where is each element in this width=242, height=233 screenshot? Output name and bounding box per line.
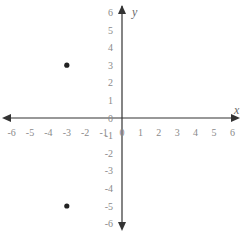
x-axis-label: x	[233, 103, 240, 117]
y-tick-label: 3	[108, 60, 113, 71]
y-tick-label: 6	[108, 7, 113, 18]
x-tick-label: -3	[63, 127, 71, 138]
x-tick-labels: -6-5-4-3-2-10123456	[7, 127, 234, 138]
data-point	[64, 203, 69, 208]
x-tick-label: -5	[26, 127, 34, 138]
x-tick-label: 2	[156, 127, 161, 138]
x-tick-label: 0	[120, 127, 125, 138]
y-tick-label: -2	[105, 148, 113, 159]
x-tick-label: 4	[193, 127, 198, 138]
y-tick-label: -3	[105, 165, 113, 176]
x-tick-label: 6	[230, 127, 235, 138]
y-tick-label-origin: 0	[108, 113, 113, 124]
x-tick-label: -6	[7, 127, 15, 138]
y-tick-label: 5	[108, 25, 113, 36]
x-axis	[2, 114, 240, 122]
x-tick-label: 3	[175, 127, 180, 138]
y-tick-label: -5	[105, 201, 113, 212]
y-tick-label: -4	[105, 183, 113, 194]
y-tick-label: 4	[108, 42, 113, 53]
data-point	[64, 63, 69, 68]
x-tick-label: -4	[44, 127, 52, 138]
y-tick-label: 1	[108, 95, 113, 106]
y-tick-label: -1	[105, 130, 113, 141]
y-axis-label: y	[131, 5, 138, 19]
x-axis-left-arrow-icon	[2, 114, 11, 122]
y-tick-label: -6	[105, 218, 113, 229]
x-tick-label: 5	[212, 127, 217, 138]
coordinate-plane: x y -6-5-4-3-2-10123456 654321-1-2-3-4-5…	[0, 0, 242, 233]
x-tick-label: 1	[138, 127, 143, 138]
y-axis-up-arrow-icon	[118, 5, 126, 14]
y-tick-label: 2	[108, 77, 113, 88]
y-axis-down-arrow-icon	[118, 222, 126, 231]
x-tick-label: -2	[81, 127, 89, 138]
